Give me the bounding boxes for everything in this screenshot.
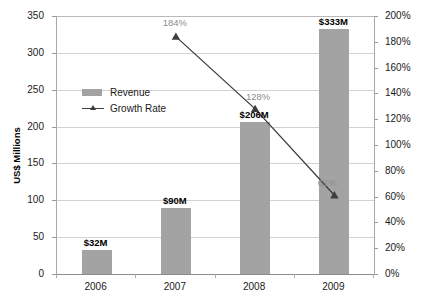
- y-axis-right-tick-label: 140%: [385, 88, 411, 98]
- y-axis-left-tick-label: 0: [38, 269, 44, 279]
- growth-rate-value-label: 61%: [297, 177, 357, 188]
- y-axis-left-tick-label: 50: [33, 232, 44, 242]
- y-axis-left-tick-label: 250: [27, 85, 44, 95]
- revenue-growth-chart: US$ Millions 050100150200250300350 0%20%…: [0, 0, 432, 306]
- growth-rate-line-series: [57, 16, 374, 274]
- growth-rate-value-label: 184%: [145, 17, 205, 28]
- legend-item-label: Revenue: [110, 86, 150, 99]
- y-axis-right-tick-label: 100%: [385, 140, 411, 150]
- y-axis-right-tick-label: 80%: [385, 166, 405, 176]
- x-axis-tickmark: [56, 274, 57, 278]
- legend-item-label: Growth Rate: [110, 102, 166, 115]
- chart-legend: RevenueGrowth Rate: [82, 86, 202, 116]
- x-axis-tickmark: [373, 274, 374, 278]
- growth-rate-value-label: 128%: [228, 91, 288, 102]
- x-axis-tickmark: [294, 274, 295, 278]
- y-axis-left-ticks: 050100150200250300350: [0, 0, 54, 306]
- plot-area: [56, 16, 375, 275]
- y-axis-right-ticks: 0%20%40%60%80%100%120%140%160%180%200%: [373, 0, 432, 306]
- legend-triangle-marker-icon: [90, 105, 96, 110]
- bar-value-label: $32M: [66, 237, 126, 248]
- y-axis-right-tick-label: 60%: [385, 192, 405, 202]
- x-axis-label-2006: 2006: [61, 281, 131, 292]
- growth-rate-marker: [172, 32, 180, 39]
- y-axis-right-tick-label: 180%: [385, 37, 411, 47]
- y-axis-left-tick-label: 100: [27, 195, 44, 205]
- x-axis-tickmark: [135, 274, 136, 278]
- y-axis-left-tick-label: 150: [27, 158, 44, 168]
- y-axis-right-tick-label: 160%: [385, 63, 411, 73]
- bar-value-label: $206M: [224, 109, 284, 120]
- y-axis-right-tick-label: 40%: [385, 217, 405, 227]
- y-axis-right-tick-label: 0%: [385, 269, 399, 279]
- y-axis-right-tick-label: 20%: [385, 243, 405, 253]
- y-axis-left-tick-label: 200: [27, 122, 44, 132]
- legend-swatch-icon: [82, 89, 102, 96]
- bar-value-label: $333M: [303, 16, 363, 27]
- x-axis-label-2007: 2007: [140, 281, 210, 292]
- x-axis-label-2009: 2009: [298, 281, 368, 292]
- y-axis-right-tick-label: 200%: [385, 11, 411, 21]
- y-axis-left-tick-label: 300: [27, 48, 44, 58]
- y-axis-left-tick-label: 350: [27, 11, 44, 21]
- x-axis-tickmark: [215, 274, 216, 278]
- x-axis-label-2008: 2008: [219, 281, 289, 292]
- bar-value-label: $90M: [145, 195, 205, 206]
- y-axis-right-tick-label: 120%: [385, 114, 411, 124]
